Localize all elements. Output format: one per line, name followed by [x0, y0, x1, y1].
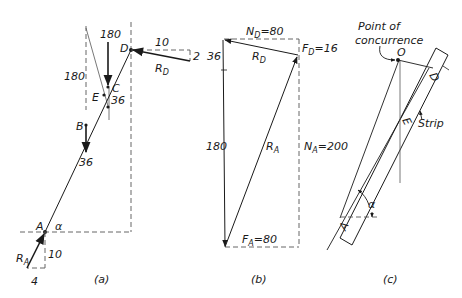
tick-d — [443, 66, 449, 70]
rd-vector — [225, 40, 298, 55]
label-concurrence: concurrence — [355, 34, 424, 47]
ra-vector — [225, 57, 297, 247]
label-rd-2: 2 — [193, 50, 200, 63]
caption-c: (c) — [383, 273, 398, 286]
label-d: D — [120, 42, 128, 55]
label-e: E — [92, 91, 99, 104]
label-nd: ND=80 — [246, 25, 284, 40]
label-na: NA=200 — [304, 140, 348, 155]
label-rd-b: RD — [252, 50, 266, 65]
label-strip: Strip — [418, 117, 444, 130]
label-a-c: A — [336, 220, 351, 234]
label-ra-10: 10 — [48, 248, 62, 261]
member-line — [45, 50, 131, 232]
force-diagram-figure: 180 180 D C E 36 B 36 A α 10 2 RD 10 4 R… — [0, 0, 462, 298]
label-ra: RA — [16, 252, 29, 267]
label-180-left: 180 — [64, 70, 85, 83]
panel-b-force-polygon: ND=80 FD=16 RD 36 180 RA NA=200 FA=80 (b… — [206, 25, 348, 286]
caption-a: (a) — [94, 273, 109, 286]
label-ra-b: RA — [266, 140, 279, 155]
label-b: B — [76, 120, 84, 133]
point-below-c — [106, 105, 109, 108]
label-o: O — [397, 46, 406, 59]
label-ra-4: 4 — [31, 275, 38, 288]
label-180-top: 180 — [100, 28, 121, 41]
point-c — [106, 85, 109, 88]
label-180-b: 180 — [206, 140, 227, 153]
label-point-of: Point of — [358, 20, 402, 33]
caption-b: (b) — [251, 273, 267, 286]
label-rd: RD — [155, 62, 169, 77]
label-36-c: 36 — [111, 94, 125, 107]
label-d-c: D — [426, 70, 441, 83]
label-36-b: 36 — [79, 156, 93, 169]
label-rd-10: 10 — [155, 36, 169, 49]
label-fd: FD=16 — [302, 42, 338, 57]
rd-arrow — [133, 50, 190, 61]
label-alpha-c: α — [368, 198, 376, 211]
panel-a-free-body-diagram: 180 180 D C E 36 B 36 A α 10 2 RD 10 4 R… — [16, 22, 200, 288]
label-a: A — [35, 220, 44, 233]
concurrence-pointer — [380, 46, 395, 60]
label-36-b: 36 — [207, 50, 221, 63]
panel-c-strip-diagram: Point of concurrence O D E Strip α A (c) — [327, 20, 449, 286]
ra-arrow — [27, 234, 44, 268]
label-fa: FA=80 — [242, 233, 277, 248]
label-alpha: α — [55, 220, 63, 233]
point-e — [102, 93, 105, 96]
